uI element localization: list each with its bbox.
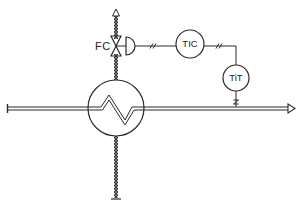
signal-line-tic-to-tit: [204, 44, 236, 66]
control-valve: [111, 36, 126, 56]
heat-exchanger: [88, 80, 144, 136]
tit-label: TiT: [223, 73, 249, 83]
valve-actuator: [126, 37, 135, 55]
signal-line-valve-to-tic: [135, 44, 176, 49]
sensor-connection: [234, 91, 239, 107]
pid-diagram: [0, 0, 300, 206]
valve-fail-label: FC: [95, 41, 111, 52]
steam-line-top: [113, 9, 120, 80]
tic-label: TIC: [176, 39, 204, 49]
steam-line-bottom: [111, 136, 121, 199]
process-line: [8, 104, 296, 113]
